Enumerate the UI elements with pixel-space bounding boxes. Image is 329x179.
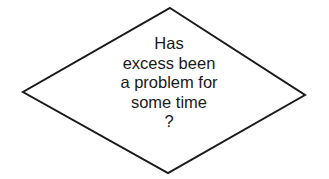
decision-line-5: ? — [94, 112, 244, 132]
decision-line-1: Has — [94, 34, 244, 54]
decision-question: Has excess been a problem for some time … — [94, 34, 244, 132]
decision-line-4: some time — [94, 93, 244, 113]
decision-line-2: excess been — [94, 54, 244, 74]
flowchart-diagram: Has excess been a problem for some time … — [0, 0, 329, 179]
decision-line-3: a problem for — [94, 73, 244, 93]
